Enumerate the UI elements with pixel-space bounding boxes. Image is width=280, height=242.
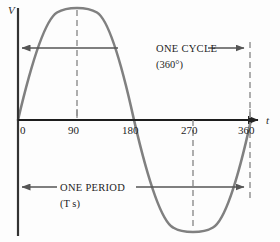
tick-label-90: 90 (68, 124, 80, 136)
x-axis-label: t (266, 114, 270, 126)
cycle-annotation-label: ONE CYCLE (156, 43, 217, 54)
cycle-annotation-sublabel: (360°) (156, 59, 183, 71)
tick-label-270: 270 (181, 124, 198, 136)
tick-label-0: 0 (20, 124, 26, 136)
sine-wave-canvas: V t 0 90 180 270 360 ONE CYCLE (360°) ON… (0, 0, 280, 242)
tick-label-360: 360 (238, 124, 255, 136)
period-annotation-label: ONE PERIOD (60, 182, 125, 193)
y-axis-label: V (8, 4, 16, 16)
sine-wave-figure: V t 0 90 180 270 360 ONE CYCLE (360°) ON… (0, 0, 280, 242)
tick-label-180: 180 (122, 124, 139, 136)
period-annotation-sublabel: (T s) (60, 198, 80, 210)
